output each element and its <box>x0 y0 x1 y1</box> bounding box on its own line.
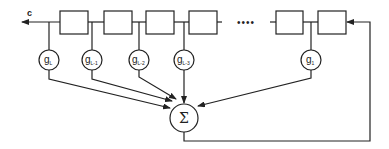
register-box <box>60 11 88 34</box>
lfsr-diagram: c •••• gL gL-1 gL-2 gL-3 g1 Σ <box>0 0 389 149</box>
register-box <box>189 11 217 34</box>
register-box <box>318 11 346 34</box>
register-box <box>276 11 303 34</box>
sigma-symbol: Σ <box>179 110 189 126</box>
feedback-line <box>184 22 370 141</box>
ellipsis: •••• <box>237 17 255 28</box>
register-box <box>146 11 174 34</box>
output-label: c <box>27 8 32 18</box>
register-box <box>104 11 132 34</box>
